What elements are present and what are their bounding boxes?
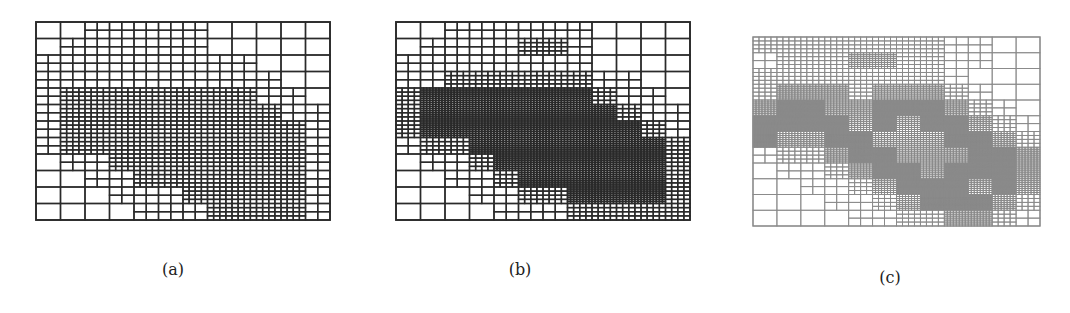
mesh-cell bbox=[849, 49, 855, 53]
mesh-cell bbox=[183, 63, 195, 71]
mesh-cell bbox=[629, 80, 641, 88]
mesh-cell bbox=[825, 72, 831, 76]
mesh-cell bbox=[873, 202, 879, 206]
mesh-cell bbox=[783, 41, 789, 45]
mesh-cell bbox=[220, 72, 232, 80]
mesh-cell bbox=[666, 121, 678, 129]
mesh-cell bbox=[789, 53, 795, 57]
mesh-cell bbox=[801, 53, 807, 57]
mesh-cell bbox=[867, 187, 873, 191]
mesh-cell bbox=[641, 22, 666, 39]
mesh-cell bbox=[1004, 108, 1016, 116]
mesh-cell bbox=[421, 162, 433, 170]
mesh-cell bbox=[494, 22, 506, 30]
mesh-cell bbox=[1022, 143, 1028, 147]
mesh-cell bbox=[944, 53, 956, 61]
mesh-cell bbox=[932, 57, 938, 61]
mesh-cell bbox=[293, 105, 305, 113]
mesh-cell bbox=[433, 72, 445, 80]
mesh-cell bbox=[992, 84, 1016, 100]
mesh-cell bbox=[849, 210, 861, 218]
mesh-cell bbox=[831, 61, 837, 65]
mesh-cell bbox=[926, 45, 932, 49]
mesh-cell bbox=[974, 104, 980, 108]
mesh-cell bbox=[506, 55, 518, 63]
mesh-cell bbox=[867, 80, 873, 84]
mesh-cell bbox=[110, 55, 122, 63]
mesh-cell bbox=[914, 41, 920, 45]
mesh-cell bbox=[457, 162, 469, 170]
mesh-cell bbox=[849, 72, 855, 76]
mesh-cell bbox=[801, 147, 807, 151]
mesh-cell bbox=[974, 112, 980, 116]
mesh-cell bbox=[1016, 116, 1028, 124]
mesh-cell bbox=[849, 88, 855, 92]
mesh-cell bbox=[1028, 210, 1040, 218]
mesh-cell bbox=[36, 113, 48, 121]
mesh-cell bbox=[678, 113, 690, 121]
mesh-cell bbox=[855, 41, 861, 45]
mesh-cell bbox=[777, 195, 801, 211]
mesh-cell bbox=[825, 179, 837, 187]
mesh-cell bbox=[396, 63, 408, 71]
mesh-cell bbox=[421, 204, 446, 221]
mesh-cell bbox=[932, 214, 938, 218]
mesh-cell bbox=[968, 53, 980, 61]
mesh-cell bbox=[408, 146, 420, 154]
mesh-cell bbox=[61, 55, 73, 63]
mesh-cell bbox=[293, 113, 305, 121]
mesh-cell bbox=[795, 151, 801, 155]
mesh-cell bbox=[122, 179, 134, 187]
mesh-cell bbox=[819, 65, 825, 69]
mesh-cell bbox=[494, 47, 506, 55]
mesh-cell bbox=[843, 76, 849, 80]
mesh-cell bbox=[807, 61, 813, 65]
mesh-cell bbox=[134, 204, 146, 212]
mesh-cell bbox=[944, 96, 950, 100]
mesh-cell bbox=[1004, 116, 1010, 120]
mesh-cell bbox=[926, 210, 932, 214]
mesh-cell bbox=[777, 57, 783, 61]
mesh-cell bbox=[861, 179, 867, 183]
mesh-cell bbox=[801, 45, 807, 49]
mesh-cell bbox=[519, 30, 531, 38]
mesh-cell bbox=[759, 88, 765, 92]
mesh-cell bbox=[831, 76, 837, 80]
mesh-cell bbox=[208, 39, 233, 56]
mesh-cell bbox=[783, 147, 789, 151]
mesh-cell bbox=[908, 53, 914, 57]
mesh-cell bbox=[855, 183, 861, 187]
mesh-cell bbox=[61, 154, 73, 162]
mesh-cell bbox=[470, 63, 482, 71]
mesh-cell bbox=[807, 41, 813, 45]
mesh-cell bbox=[819, 155, 825, 159]
mesh-cell bbox=[457, 39, 469, 47]
mesh-cell bbox=[506, 22, 518, 30]
mesh-cell bbox=[980, 108, 986, 112]
mesh-cell bbox=[97, 22, 109, 30]
mesh-cell bbox=[831, 57, 837, 61]
mesh-cell bbox=[926, 218, 932, 222]
mesh-cell bbox=[879, 76, 885, 80]
mesh-cell bbox=[879, 80, 885, 84]
mesh-cell bbox=[482, 179, 494, 187]
mesh-cell bbox=[568, 22, 580, 30]
mesh-cell bbox=[849, 69, 855, 73]
mesh-cell bbox=[122, 72, 134, 80]
mesh-cell bbox=[879, 195, 885, 199]
mesh-cell bbox=[789, 57, 795, 61]
mesh-cell bbox=[777, 61, 783, 65]
mesh-cell bbox=[494, 212, 506, 220]
mesh-cell bbox=[122, 39, 134, 47]
mesh-cell bbox=[48, 96, 60, 104]
mesh-cell bbox=[183, 47, 195, 55]
mesh-cell bbox=[801, 159, 807, 163]
mesh-cell bbox=[134, 47, 146, 55]
mesh-cell bbox=[433, 39, 445, 47]
mesh-cell bbox=[765, 49, 771, 53]
mesh-cell bbox=[867, 96, 873, 100]
mesh-cell bbox=[801, 72, 807, 76]
mesh-cell bbox=[879, 72, 885, 76]
mesh-cell bbox=[122, 171, 134, 179]
mesh-cell bbox=[986, 100, 992, 104]
